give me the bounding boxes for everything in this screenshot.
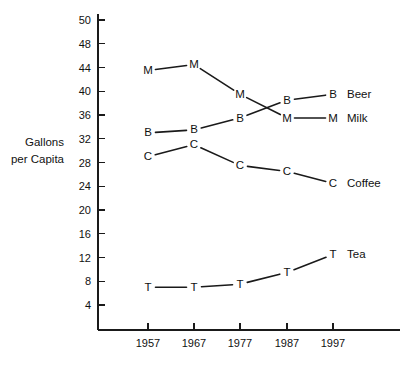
data-point-marker: T bbox=[236, 278, 243, 290]
data-point-marker: C bbox=[329, 177, 337, 189]
x-tick-label: 1997 bbox=[321, 337, 345, 349]
series-segment bbox=[155, 130, 186, 132]
series-coffee: CCCCCCoffee bbox=[144, 138, 381, 189]
y-axis-title: Gallonsper Capita bbox=[11, 136, 65, 165]
y-tick-label: 48 bbox=[79, 38, 91, 50]
data-point-marker: M bbox=[189, 58, 199, 70]
data-point-marker: B bbox=[236, 112, 244, 124]
y-axis-title-line2: per Capita bbox=[11, 153, 65, 165]
y-tick-label: 40 bbox=[79, 85, 91, 97]
y-axis-title-line1: Gallons bbox=[25, 136, 64, 148]
data-point-marker: B bbox=[283, 94, 291, 106]
series-segment bbox=[294, 257, 326, 269]
series-segment bbox=[201, 148, 233, 163]
data-series-group: BBBBBBeerMMMMMMilkCCCCCCoffeeTTTTTTea bbox=[143, 58, 380, 293]
data-point-marker: T bbox=[190, 281, 197, 293]
x-tick-label: 1977 bbox=[228, 337, 252, 349]
y-tick-label: 4 bbox=[85, 299, 91, 311]
series-tea: TTTTTTea bbox=[144, 248, 366, 293]
series-segment bbox=[155, 65, 186, 69]
series-segment bbox=[200, 69, 233, 91]
x-tick-label: 1967 bbox=[182, 337, 206, 349]
data-point-marker: B bbox=[190, 123, 198, 135]
series-segment bbox=[247, 103, 280, 115]
y-tick-label: 36 bbox=[79, 109, 91, 121]
y-tick-label: 44 bbox=[79, 62, 91, 74]
data-point-marker: C bbox=[236, 159, 244, 171]
y-tick-label: 50 bbox=[79, 14, 91, 26]
data-point-marker: M bbox=[235, 88, 245, 100]
chart-plot-area: 504844403632282420161284 195719671977198… bbox=[0, 0, 410, 366]
y-tick-label: 20 bbox=[79, 204, 91, 216]
y-tick-label: 8 bbox=[85, 275, 91, 287]
y-tick-label: 24 bbox=[79, 180, 91, 192]
series-label-coffee: Coffee bbox=[347, 177, 381, 189]
x-axis: 19571967197719871997 bbox=[98, 323, 400, 349]
data-point-marker: M bbox=[282, 112, 292, 124]
data-point-marker: T bbox=[329, 248, 336, 260]
series-segment bbox=[201, 285, 232, 287]
data-point-marker: C bbox=[144, 150, 152, 162]
series-label-milk: Milk bbox=[347, 112, 368, 124]
data-point-marker: T bbox=[144, 281, 151, 293]
series-segment bbox=[155, 147, 186, 155]
y-tick-label: 12 bbox=[79, 252, 91, 264]
data-point-marker: B bbox=[329, 88, 337, 100]
series-segment bbox=[247, 274, 279, 282]
data-point-marker: M bbox=[143, 64, 153, 76]
series-label-beer: Beer bbox=[347, 88, 371, 100]
x-tick-label: 1987 bbox=[275, 337, 299, 349]
y-axis: 504844403632282420161284 bbox=[79, 14, 105, 330]
series-label-tea: Tea bbox=[347, 248, 366, 260]
series-segment bbox=[247, 166, 279, 170]
data-point-marker: B bbox=[144, 126, 152, 138]
series-segment bbox=[247, 98, 281, 115]
series-segment bbox=[201, 120, 232, 128]
beverage-consumption-chart: 504844403632282420161284 195719671977198… bbox=[0, 0, 410, 366]
data-point-marker: T bbox=[283, 266, 290, 278]
y-tick-label: 28 bbox=[79, 157, 91, 169]
y-tick-label: 16 bbox=[79, 228, 91, 240]
series-segment bbox=[294, 173, 325, 181]
data-point-marker: C bbox=[190, 138, 198, 150]
data-point-marker: C bbox=[283, 165, 291, 177]
y-tick-label: 32 bbox=[79, 133, 91, 145]
x-tick-label: 1957 bbox=[136, 337, 160, 349]
data-point-marker: M bbox=[328, 112, 338, 124]
series-segment bbox=[294, 95, 325, 99]
